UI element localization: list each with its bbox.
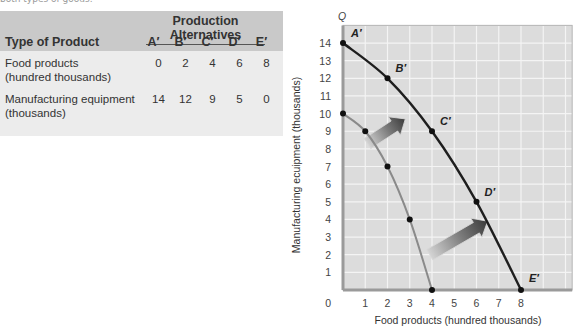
y-tick-label: 5	[325, 196, 331, 208]
data-point	[429, 287, 435, 293]
plot-area	[343, 25, 572, 290]
x-tick-label: 1	[362, 297, 368, 309]
x-tick-label: 2	[385, 297, 391, 309]
y-axis-title: Manufacturing ecuipment (thousands)	[290, 77, 302, 253]
y-tick-label: 4	[325, 213, 331, 225]
y-tick-label: 9	[325, 125, 331, 137]
x-tick-label: 8	[518, 297, 524, 309]
x-axis-title: Food products (hundred thousands)	[375, 314, 542, 326]
y-tick-label: 10	[319, 108, 331, 120]
y-tick-label: 2	[325, 249, 331, 261]
y-tick-label: 3	[325, 231, 331, 243]
x-tick-label: 4	[429, 297, 435, 309]
y-tick-label: 12	[319, 72, 331, 84]
data-point	[340, 40, 346, 46]
data-point	[518, 287, 524, 293]
y-tick-label: 11	[320, 90, 331, 102]
data-point	[340, 111, 346, 117]
data-point	[429, 128, 435, 134]
data-point	[407, 216, 413, 222]
ppf-chart: 1234567891011121314012345678QQA′B′C′D′E′…	[0, 0, 580, 331]
data-point	[385, 164, 391, 170]
y-tick-label: 13	[319, 55, 331, 67]
data-point	[385, 75, 391, 81]
y-tick-label: 6	[325, 178, 331, 190]
point-label: C′	[440, 115, 452, 127]
point-label: A′	[350, 27, 363, 39]
y-tick-label: 8	[325, 143, 331, 155]
data-point	[362, 128, 368, 134]
point-label: D′	[485, 186, 497, 198]
data-point	[474, 199, 480, 205]
x-tick-label: 0	[325, 297, 331, 309]
point-label: B′	[396, 62, 408, 74]
y-tick-label: 7	[325, 161, 331, 173]
x-tick-label: 6	[474, 297, 480, 309]
x-tick-label: 3	[407, 297, 413, 309]
y-axis-symbol: Q	[338, 10, 346, 22]
x-tick-label: 7	[496, 297, 502, 309]
y-tick-label: 14	[319, 37, 331, 49]
x-tick-label: 5	[451, 297, 457, 309]
y-tick-label: 1	[325, 266, 331, 278]
point-label: E′	[529, 272, 540, 284]
